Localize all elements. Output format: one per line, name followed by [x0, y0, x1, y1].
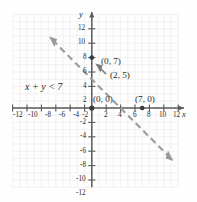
point-label-7-0: (7, 0) [135, 95, 155, 104]
y-axis-label: y [79, 10, 83, 19]
xtick-label-8: 8 [147, 112, 151, 119]
x-axis-label: x [182, 110, 186, 119]
point-label-0-7: (0, 7) [101, 57, 121, 66]
ytick-label--12: -12 [76, 190, 86, 197]
ytick-label--8: -8 [80, 162, 86, 169]
ytick-label--10: -10 [76, 176, 86, 183]
ytick-label-4: 4 [83, 83, 87, 90]
ytick-label--4: -4 [80, 133, 86, 140]
inequality-annotation: x + y < 7 [25, 82, 62, 92]
ytick-label-8: 8 [83, 54, 87, 61]
point-0-0 [89, 105, 94, 110]
xtick-label-12: 12 [173, 112, 180, 119]
ytick-label-12: 12 [78, 25, 85, 32]
point-0-7 [90, 55, 95, 60]
xtick-label--4: -4 [73, 112, 79, 119]
xtick-label--8: -8 [45, 112, 51, 119]
ytick-label-10: 10 [78, 39, 85, 46]
xtick-label-10: 10 [159, 112, 166, 119]
graph-figure: y x -12 -10 -8 -6 -4 -2 2 4 6 8 10 12 12… [0, 0, 197, 202]
ytick-label--6: -6 [80, 148, 86, 155]
xtick-label-4: 4 [118, 112, 122, 119]
xtick-label--6: -6 [59, 112, 65, 119]
xtick-label-2: 2 [104, 112, 108, 119]
point-label-0-0: (0, 0) [93, 95, 113, 104]
ytick-label--2: -2 [80, 119, 86, 126]
xtick-label--12: -12 [13, 112, 23, 119]
ytick-label-2: 2 [83, 97, 87, 104]
point-7-0 [140, 106, 145, 111]
xtick-label-6: 6 [133, 112, 137, 119]
xtick-label--10: -10 [28, 112, 38, 119]
ytick-label-6: 6 [83, 68, 87, 75]
point-label-2-5: (2, 5) [110, 71, 130, 80]
